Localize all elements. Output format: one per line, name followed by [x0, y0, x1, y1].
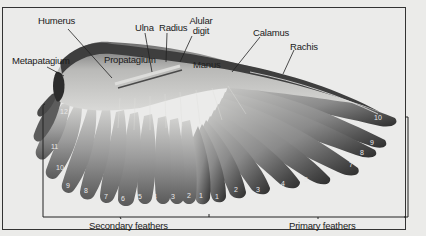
primary-number: 7 — [349, 161, 353, 168]
label-alular-line2: digit — [187, 26, 215, 36]
label-secondary-feathers: Secondary feathers — [89, 221, 168, 231]
primary-number: 10 — [374, 114, 382, 121]
secondary-number: 4 — [153, 193, 157, 200]
secondary-number: 9 — [66, 182, 70, 189]
label-propatagium: Propatagium — [104, 55, 156, 65]
primary-feathers — [190, 80, 397, 204]
primary-number: 1 — [215, 193, 219, 200]
secondary-number: 8 — [84, 187, 88, 194]
primary-number: 4 — [281, 180, 285, 187]
primary-number: 3 — [256, 186, 260, 193]
label-ulna: Ulna — [135, 23, 154, 33]
primary-number: 8 — [360, 149, 364, 156]
primary-number: 6 — [330, 171, 334, 178]
label-calamus: Calamus — [253, 28, 289, 38]
secondary-number: 7 — [104, 193, 108, 200]
label-alular-digit: Alular digit — [187, 16, 215, 36]
secondary-number: 6 — [121, 195, 125, 202]
label-primary-feathers: Primary feathers — [289, 221, 356, 231]
label-humerus: Humerus — [38, 16, 75, 26]
primary-number: 9 — [370, 139, 374, 146]
primary-number: 2 — [234, 186, 238, 193]
primary-number: 5 — [304, 176, 308, 183]
secondary-number: 12 — [60, 108, 68, 115]
label-rachis: Rachis — [290, 42, 318, 52]
secondary-number: 1 — [199, 192, 203, 199]
secondary-number: 3 — [171, 193, 175, 200]
secondary-number: 11 — [51, 143, 58, 150]
secondary-number: 5 — [138, 193, 142, 200]
secondary-number: 10 — [56, 164, 64, 171]
label-radius: Radius — [159, 23, 187, 33]
label-metapatagium: Metapatagium — [12, 56, 70, 66]
secondary-number: 2 — [187, 192, 191, 199]
label-manus: Manus — [193, 60, 221, 70]
